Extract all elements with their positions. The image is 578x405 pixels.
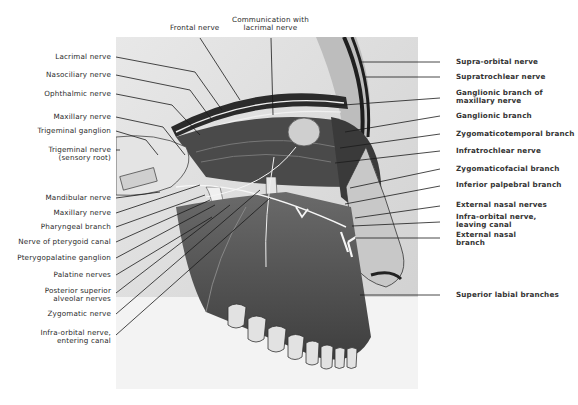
label-zygomaticotemporal-branch: Zygomaticotemporal branch — [456, 130, 574, 138]
label-frontal-nerve: Frontal nerve — [170, 24, 219, 32]
label-maxillary-nerve-lower: Maxillary nerve — [53, 209, 111, 217]
label-pterygopalatine-ganglion: Pterygopalatine ganglion — [17, 254, 111, 262]
label-infra-orbital-nerve-entering-canal: Infra-orbital nerve, entering canal — [40, 329, 111, 346]
label-posterior-superior-alveolar-nerves: Posterior superior alveolar nerves — [45, 287, 111, 304]
label-external-nasal-nerves: External nasal nerves — [456, 201, 547, 209]
label-lacrimal-nerve: Lacrimal nerve — [55, 53, 111, 61]
label-palatine-nerves: Palatine nerves — [54, 271, 112, 279]
label-inferior-palpebral-branch: Inferior palpebral branch — [456, 181, 562, 189]
label-maxillary-nerve-upper: Maxillary nerve — [53, 113, 111, 121]
label-infratrochlear-nerve: Infratrochlear nerve — [456, 147, 541, 155]
label-zygomatic-nerve: Zygomatic nerve — [48, 310, 111, 318]
label-nasociliary-nerve: Nasociliary nerve — [46, 71, 111, 79]
label-supratrochlear-nerve: Supratrochlear nerve — [456, 73, 545, 81]
label-supra-orbital-nerve: Supra-orbital nerve — [456, 58, 538, 66]
label-infra-orbital-nerve-leaving-canal: Infra-orbital nerve, leaving canal — [456, 213, 536, 230]
label-mandibular-nerve: Mandibular nerve — [46, 194, 112, 202]
label-communication-with-lacrimal-nerve: Communication with lacrimal nerve — [232, 16, 309, 33]
label-trigeminal-nerve-sensory-root: Trigeminal nerve (sensory root) — [48, 146, 111, 163]
label-ganglionic-branch-of-maxillary-nerve: Ganglionic branch of maxillary nerve — [456, 89, 543, 106]
label-trigeminal-ganglion: Trigeminal ganglion — [38, 127, 111, 135]
label-ganglionic-branch: Ganglionic branch — [456, 112, 532, 120]
label-zygomaticofacial-branch: Zygomaticofacial branch — [456, 165, 559, 173]
label-ophthalmic-nerve: Ophthalmic nerve — [44, 90, 111, 98]
label-nerve-of-pterygoid-canal: Nerve of pterygoid canal — [18, 238, 111, 246]
label-pharyngeal-branch: Pharyngeal branch — [41, 223, 111, 231]
label-superior-labial-branches: Superior labial branches — [456, 291, 559, 299]
label-external-nasal-branch: External nasal branch — [456, 231, 516, 248]
